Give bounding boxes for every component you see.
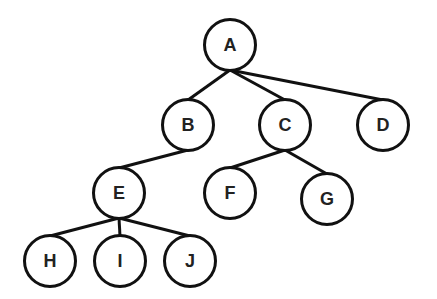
node-label: A: [224, 35, 237, 56]
node-label: D: [377, 115, 390, 136]
node-j: J: [163, 234, 217, 288]
node-h: H: [23, 234, 77, 288]
edge-C-F: [230, 150, 285, 168]
tree-diagram: ABCDEFGHIJ: [0, 0, 437, 299]
node-label: C: [279, 115, 292, 136]
node-label: J: [185, 251, 195, 272]
node-label: H: [44, 251, 57, 272]
node-label: F: [225, 183, 236, 204]
node-a: A: [203, 18, 257, 72]
node-b: B: [161, 98, 215, 152]
node-label: E: [113, 183, 125, 204]
edge-E-H: [50, 218, 119, 236]
node-c: C: [258, 98, 312, 152]
node-d: D: [356, 98, 410, 152]
node-label: I: [117, 251, 122, 272]
node-g: G: [300, 172, 354, 226]
edge-A-B: [188, 70, 230, 100]
node-i: I: [93, 234, 147, 288]
edge-C-G: [285, 150, 327, 174]
edge-B-E: [119, 150, 188, 168]
edge-E-J: [119, 218, 190, 236]
node-e: E: [92, 166, 146, 220]
node-label: G: [320, 189, 334, 210]
node-f: F: [203, 166, 257, 220]
node-label: B: [182, 115, 195, 136]
edge-A-D: [230, 70, 383, 100]
